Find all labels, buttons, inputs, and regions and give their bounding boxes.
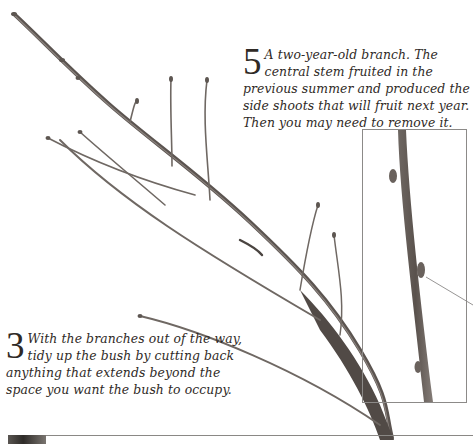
step-number: 3 [6, 332, 25, 360]
inset-frame [362, 129, 467, 403]
caption-text: A two-year-old branch. The central stem … [243, 47, 470, 130]
caption-step-3: 3 With the branches out of the way, tidy… [6, 330, 246, 398]
next-panel-photo-edge [8, 435, 46, 444]
caption-step-5: 5 A two-year-old branch. The central ste… [243, 46, 473, 131]
book-page: 5 A two-year-old branch. The central ste… [0, 0, 473, 444]
caption-text: With the branches out of the way, tidy u… [6, 331, 242, 397]
next-panel-border [8, 435, 473, 444]
step-number: 5 [243, 48, 262, 76]
